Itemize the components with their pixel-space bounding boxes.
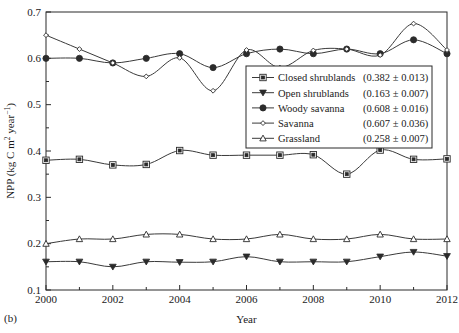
marker-circle-filled [260, 105, 266, 111]
marker-square-core [111, 163, 114, 166]
legend-item-woody-savanna[interactable]: Woody savanna(0.608 ± 0.016) [252, 103, 429, 115]
x-tick-label: 2002 [102, 293, 124, 305]
legend-series-value: (0.163 ± 0.007) [363, 88, 429, 100]
marker-circle-filled [43, 55, 49, 61]
x-tick-label: 2008 [302, 293, 325, 305]
panel-label: (b) [4, 312, 17, 324]
figure-panel-b: 0.10.20.30.40.50.60.72000200220042006200… [0, 0, 459, 333]
legend-series-name: Closed shrublands [278, 72, 355, 83]
marker-circle-filled [143, 55, 149, 61]
y-tick-label: 0.4 [27, 145, 41, 157]
legend-series-value: (0.608 ± 0.016) [363, 103, 429, 115]
legend-item-open-shrublands[interactable]: Open shrublands(0.163 ± 0.007) [252, 88, 429, 100]
marker-square-core [245, 154, 248, 157]
marker-diamond [77, 47, 82, 52]
legend-series-value: (0.382 ± 0.013) [363, 72, 429, 84]
marker-circle-filled [210, 65, 216, 71]
legend-series-name: Savanna [278, 118, 314, 129]
y-tick-label: 0.6 [27, 52, 41, 64]
legend-item-closed-shrublands[interactable]: Closed shrublands(0.382 ± 0.013) [252, 72, 429, 84]
series-closed-shrublands [43, 147, 450, 177]
x-tick-label: 2010 [369, 293, 392, 305]
marker-square-core [345, 173, 348, 176]
marker-diamond [44, 33, 49, 38]
legend-series-name: Grassland [278, 133, 321, 144]
marker-square-core [262, 76, 265, 79]
marker-square-core [312, 153, 315, 156]
x-tick-label: 2006 [236, 293, 259, 305]
marker-square-core [212, 154, 215, 157]
legend-series-name: Woody savanna [278, 103, 345, 114]
x-tick-label: 2000 [35, 293, 58, 305]
marker-square-core [78, 158, 81, 161]
legend-series-value: (0.258 ± 0.007) [363, 133, 429, 145]
y-tick-label: 0.2 [27, 237, 41, 249]
marker-square-core [45, 159, 48, 162]
marker-square-core [145, 163, 148, 166]
y-tick-label: 0.5 [27, 98, 41, 110]
series-open-shrublands [43, 249, 451, 270]
y-tick-label: 0.7 [27, 6, 41, 18]
x-tick-label: 2012 [436, 293, 458, 305]
marker-square-core [446, 157, 449, 160]
marker-square-core [178, 149, 181, 152]
legend-series-name: Open shrublands [278, 88, 349, 99]
marker-circle-filled [410, 37, 416, 43]
marker-triangle-down [444, 254, 451, 260]
marker-square-core [278, 154, 281, 157]
legend-series-value: (0.607 ± 0.036) [363, 118, 429, 130]
marker-diamond [211, 88, 216, 93]
y-axis-title: NPP (kg C m2 year−1) [3, 103, 18, 199]
x-axis-title: Year [236, 313, 257, 325]
series-grassland [43, 231, 450, 246]
marker-square-core [412, 158, 415, 161]
chart-legend: Closed shrublands(0.382 ± 0.013)Open shr… [246, 66, 432, 148]
marker-circle-filled [277, 46, 283, 52]
x-tick-label: 2004 [169, 293, 192, 305]
y-tick-label: 0.3 [27, 191, 41, 203]
marker-diamond [144, 74, 149, 79]
npp-line-chart: 0.10.20.30.40.50.60.72000200220042006200… [0, 0, 459, 333]
marker-square-core [379, 149, 382, 152]
marker-diamond [411, 21, 416, 26]
marker-circle-filled [76, 55, 82, 61]
